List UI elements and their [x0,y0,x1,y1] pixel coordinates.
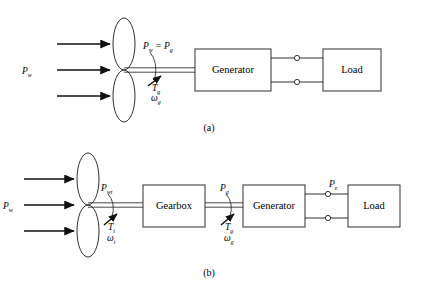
generator-power-leader-b [226,194,231,217]
turbine-blade-upper-icon [113,18,135,70]
shaft-power-leader-a [150,52,156,78]
generator-box-label-a: Generator [212,64,254,75]
turbine-speed-label-b: ωt [107,233,116,245]
terminal-node-bottom-b [325,215,330,220]
gearbox-generator-shaft-b [205,203,243,207]
turbine-power-subscript-b: wt [107,189,113,195]
turbine-power-leader-b [108,194,113,217]
panel-b: Pw Pwt Tt ωt Gearbox [2,153,400,279]
terminal-node-top-a [294,55,299,60]
wind-arrows-a [57,44,110,96]
generator-speed-subscript-b: g [231,239,234,245]
wind-power-subscript-b: w [9,207,13,213]
panel-a: Pw Pw = Pg Tg ωg Generator [21,18,381,134]
wind-power-label-b: Pw [2,201,13,213]
panel-b-caption: (b) [203,267,215,279]
panel-a-caption: (a) [203,122,214,134]
turbine-torque-label-b: Tt [108,222,115,234]
turbine-gearbox-shaft-b [88,203,143,207]
electrical-connection-a [271,55,323,84]
generator-box-label-b: Generator [253,200,295,211]
shaft-power-equals-a: = [153,41,164,51]
wind-arrows-b [24,179,74,231]
shaft-power-label-a: Pw = Pg [142,41,173,53]
figure-container: Pw Pw = Pg Tg ωg Generator [0,0,423,295]
shaft-power-sub2-a: g [170,47,173,53]
load-box-label-a: Load [341,64,363,75]
generator-power-subscript-b: g [226,189,229,195]
generator-torque-subscript-b: g [230,228,233,234]
turbine-blade-lower-icon [77,205,99,257]
electrical-power-label-b: Pe [328,179,338,191]
electrical-connection-b [305,191,348,220]
generator-speed-label-b: ωg [224,233,234,245]
turbine-generator-shaft-a [124,68,195,72]
gearbox-box-label-b: Gearbox [156,200,193,211]
turbine-power-label-b: Pwt [100,183,113,195]
terminal-node-top-b [325,191,330,196]
speed-subscript-a: g [158,99,161,105]
wind-power-subscript-a: w [28,72,32,78]
turbine-rotor-b [77,153,99,257]
torque-subscript-a: g [157,89,160,95]
load-box-label-b: Load [363,200,385,211]
speed-label-a: ωg [151,93,161,105]
electrical-power-subscript-b: e [335,185,338,191]
turbine-speed-subscript-b: t [114,239,116,245]
turbine-blade-upper-icon [77,153,99,205]
generator-power-label-b: Pg [219,183,229,195]
wind-energy-system-diagram: Pw Pw = Pg Tg ωg Generator [0,0,423,295]
terminal-node-bottom-a [294,79,299,84]
turbine-rotor-a [113,18,135,122]
wind-power-label-a: Pw [21,66,32,78]
generator-torque-label-b: Tg [225,222,233,234]
turbine-blade-lower-icon [113,70,135,122]
